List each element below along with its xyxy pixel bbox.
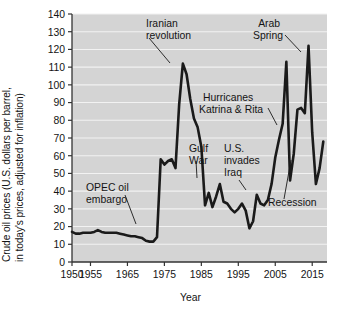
annotation-us-invades-iraq-line3: Iraq: [224, 167, 242, 178]
x-axis-tick-label: 2005: [264, 269, 287, 280]
x-axis-label: Year: [138, 292, 201, 303]
annotation-us-invades-iraq-line2: invades: [224, 155, 260, 166]
y-axis-tick-label: 0: [59, 257, 65, 268]
annotation-arab-spring: Arab Spring: [253, 18, 283, 41]
annotation-gulf-war-line1: Gulf: [189, 143, 208, 154]
x-axis: 19501955196519751985199520052015: [60, 262, 327, 280]
y-axis-tick-label: 80: [53, 115, 65, 126]
y-axis-tick-label: 20: [53, 221, 65, 232]
x-axis-ticks: 19501955196519751985199520052015: [60, 262, 324, 280]
y-axis-tick-label: 120: [48, 44, 66, 55]
annotation-arab-spring-line1: Arab: [258, 18, 280, 29]
annotation-recession: Recession: [268, 197, 317, 208]
x-axis-label-wrapper: Year: [0, 292, 339, 303]
y-axis-ticks: 0102030405060708090100110120130140: [48, 9, 72, 268]
annotation-hurricanes-line2: Katrina & Rita: [199, 104, 263, 115]
annotation-opec-embargo-line1: OPEC oil: [86, 182, 129, 193]
annotation-recession-line1: Recession: [268, 197, 317, 208]
y-axis-tick-label: 130: [48, 27, 66, 38]
x-axis-tick-label: 2015: [301, 269, 324, 280]
x-axis-tick-label: 1985: [190, 269, 213, 280]
x-axis-tick-label: 1995: [227, 269, 250, 280]
y-axis-tick-label: 100: [48, 80, 66, 91]
y-axis-tick-label: 40: [53, 186, 65, 197]
y-axis-tick-label: 30: [53, 204, 65, 215]
chart-figure: Crude oil prices (U.S. dollars per barre…: [0, 0, 339, 312]
x-axis-tick-label: 1975: [153, 269, 176, 280]
annotation-gulf-war-line2: War: [189, 155, 208, 166]
x-axis-tick-label: 1955: [79, 269, 102, 280]
annotation-hurricanes: Hurricanes Katrina & Rita: [199, 92, 263, 115]
y-axis: 0102030405060708090100110120130140: [48, 9, 72, 268]
annotation-hurricanes-line1: Hurricanes: [203, 92, 253, 103]
annotation-iranian-revolution-line1: Iranian: [146, 18, 178, 29]
y-axis-label-wrapper: Crude oil prices (U.S. dollars per barre…: [0, 0, 30, 270]
y-axis-tick-label: 10: [53, 239, 65, 250]
y-axis-label-line1: Crude oil prices (U.S. dollars per barre…: [0, 87, 13, 262]
annotation-gulf-war: Gulf War: [189, 143, 211, 166]
x-axis-tick-label: 1965: [116, 269, 139, 280]
y-axis-tick-label: 110: [48, 62, 65, 73]
annotation-iranian-revolution-line2: revolution: [146, 30, 191, 41]
line-chart-plot: 0102030405060708090100110120130140 19501…: [0, 0, 339, 312]
y-axis-tick-label: 50: [53, 168, 65, 179]
y-axis-tick-label: 140: [48, 9, 66, 20]
y-axis-tick-label: 90: [53, 97, 65, 108]
y-axis-label-line2: in today's prices, adjusted for inflatio…: [13, 87, 26, 262]
annotation-arab-spring-line2: Spring: [253, 30, 283, 41]
y-axis-label: Crude oil prices (U.S. dollars per barre…: [0, 87, 26, 262]
annotation-opec-embargo-line2: embargo: [86, 194, 127, 205]
y-axis-tick-label: 70: [53, 133, 65, 144]
annotation-opec-embargo: OPEC oil embargo: [86, 182, 132, 205]
y-axis-tick-label: 60: [53, 151, 65, 162]
annotation-us-invades-iraq-line1: U.S.: [224, 143, 244, 154]
